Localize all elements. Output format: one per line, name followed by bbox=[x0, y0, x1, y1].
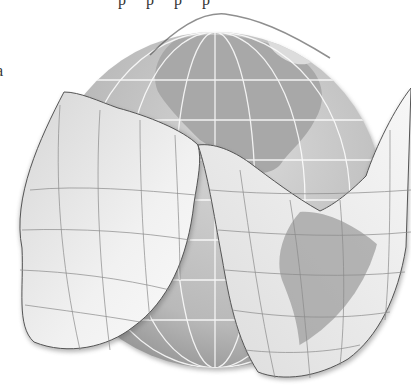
globe-projection-illustration bbox=[0, 0, 411, 385]
